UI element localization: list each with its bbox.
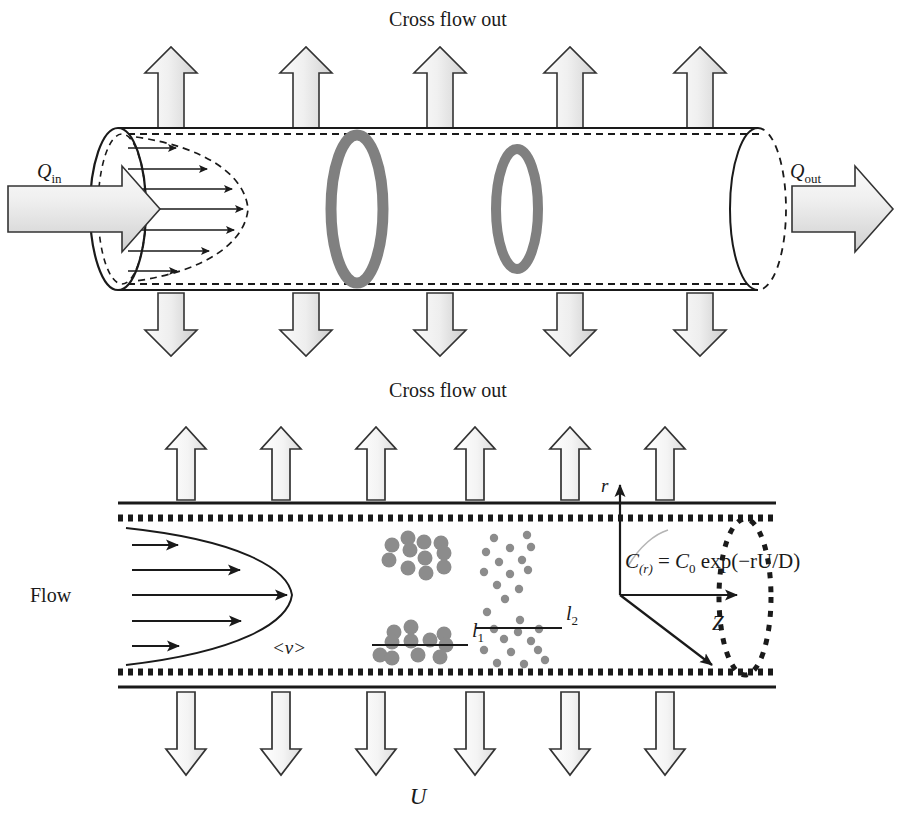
particle-dot-icon [541,656,549,664]
top-crossflow-down-arrows [145,293,726,356]
particle-dot-icon [382,553,397,568]
particle-cluster-l2-lower [480,608,549,668]
particle-dot-icon [527,637,535,645]
flow-profile-arrows [132,545,287,646]
particle-dot-icon [516,616,524,624]
particle-dot-icon [501,595,509,603]
layer-label-l2: l2 [566,602,578,628]
equation-lhs-sub: (r) [639,561,653,576]
up-arrow-icon [280,47,332,128]
down-arrow-icon [145,293,197,356]
down-arrow-icon [356,692,396,775]
mean-velocity-label: <v> [272,637,306,658]
particle-dot-icon [515,585,523,593]
particle-dot-icon [385,538,400,553]
particle-dot-icon [480,568,488,576]
outlet-subscript: out [804,171,821,186]
up-arrow-icon [145,47,197,128]
up-arrow-icon [544,47,596,128]
top-crossflow-up-arrows [145,47,726,128]
down-arrow-icon [455,692,495,775]
particle-dot-icon [534,646,542,654]
layer-label-l1: l1 [472,619,484,645]
particle-dot-icon [401,561,416,576]
down-arrow-icon [544,293,596,356]
flow-profile-envelope [126,528,292,665]
particle-cluster-l1-upper [382,531,452,581]
down-arrow-icon [261,692,301,775]
flow-label: Flow [30,584,72,606]
particle-dot-icon [500,635,508,643]
particle-dot-icon [490,534,498,542]
down-arrow-icon [674,293,726,356]
particle-dot-icon [495,558,503,566]
equation-lhs: C [625,549,640,573]
particle-dot-icon [514,628,522,636]
particle-dot-icon [535,625,543,633]
particle-dot-icon [520,660,528,668]
axial-velocity-label: U [410,784,428,809]
particle-dot-icon [404,634,419,649]
bottom-panel: Flow <v> [30,427,800,809]
particle-dot-icon [518,556,526,564]
bottom-crossflow-down-arrows [166,692,685,775]
crossflow-filtration-diagram: Cross flow out [0,0,897,821]
outlet-symbol: Q [790,160,805,182]
figure-root: Cross flow out [0,0,897,821]
up-arrow-icon [261,427,301,500]
particle-dot-icon [433,650,448,665]
radial-axis-label: r [601,475,609,496]
particle-dot-icon [385,651,400,666]
equation-equals: = [653,549,675,573]
inlet-symbol: Q [37,160,52,182]
ring-icon [331,135,383,283]
particle-dot-icon [418,551,433,566]
bottom-crossflow-out-label: Cross flow out [389,379,507,401]
coordinate-axes [620,485,737,665]
particle-dot-icon [506,570,514,578]
inlet-subscript: in [51,171,62,186]
particle-dot-icon [419,566,434,581]
particle-dot-icon [480,646,488,654]
particle-dot-icon [524,566,532,574]
particle-dot-icon [482,548,490,556]
particle-cluster-l2-upper [480,531,535,603]
ring-icon [496,149,538,269]
up-arrow-icon [455,427,495,500]
up-arrow-icon [645,427,685,500]
particle-dot-icon [417,535,432,550]
particle-dot-icon [523,531,531,539]
up-arrow-icon [414,47,466,128]
down-arrow-icon [280,293,332,356]
up-arrow-icon [550,427,590,500]
equation-rhs: C [675,549,690,573]
particle-dot-icon [411,648,426,663]
diagonal-arrow-icon [620,595,712,665]
particle-dot-icon [506,544,514,552]
particle-dot-icon [437,560,452,575]
ring-group [331,135,538,283]
up-arrow-icon [166,427,206,500]
top-panel: Cross flow out [8,8,893,401]
particle-dot-icon [527,543,535,551]
up-arrow-icon [356,427,396,500]
down-arrow-icon [645,692,685,775]
down-arrow-icon [550,692,590,775]
particle-dot-icon [493,659,501,667]
concentration-equation: C(r) = C0 exp(−rU/D) [625,549,800,576]
equation-exp: exp(−rU/D) [696,549,801,573]
particle-cluster-l1-lower [373,620,454,666]
down-arrow-icon [166,692,206,775]
up-arrow-icon [674,47,726,128]
inlet-label: Qin [37,160,62,186]
outlet-label: Qout [790,160,821,186]
particle-dot-icon [507,648,515,656]
particle-dot-icon [493,581,501,589]
particle-dot-icon [490,625,498,633]
down-arrow-icon [414,293,466,356]
top-crossflow-out-label: Cross flow out [389,8,507,30]
particle-dot-icon [483,608,491,616]
particle-dot-icon [437,546,452,561]
particle-dot-icon [385,635,400,650]
outlet-dashed-ellipse [719,519,771,675]
